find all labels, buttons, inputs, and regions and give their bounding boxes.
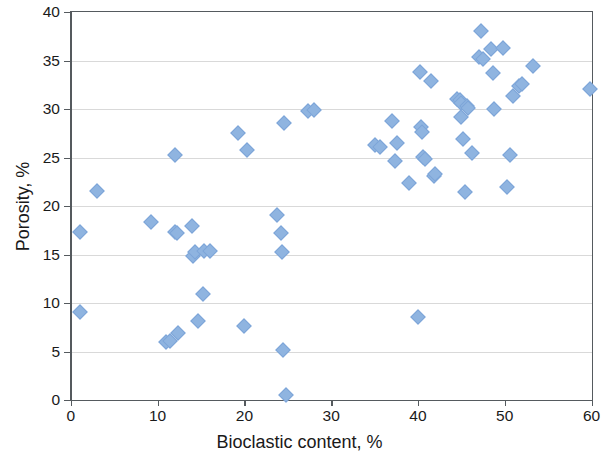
x-tick-label-30: 30 — [308, 408, 354, 423]
data-point — [410, 309, 426, 325]
data-point — [143, 214, 159, 230]
x-tick-40 — [418, 400, 419, 406]
y-tick-label-35: 35 — [18, 53, 60, 68]
data-point — [487, 101, 503, 117]
data-point — [389, 135, 405, 151]
data-point — [499, 179, 515, 195]
y-axis-line — [70, 11, 72, 401]
x-tick-label-50: 50 — [482, 408, 528, 423]
data-point — [388, 154, 404, 170]
data-point — [231, 126, 247, 142]
x-tick-50 — [505, 400, 506, 406]
y-tick-30 — [64, 109, 70, 110]
x-tick-label-10: 10 — [135, 408, 181, 423]
data-point — [423, 73, 439, 89]
gridline-y-5 — [71, 352, 592, 353]
y-tick-35 — [64, 61, 70, 62]
data-point — [167, 147, 183, 163]
data-point — [190, 314, 206, 330]
data-point — [195, 287, 211, 303]
data-point — [185, 219, 201, 235]
plot-frame-right — [592, 11, 593, 401]
data-point — [273, 225, 289, 241]
data-point — [457, 185, 473, 201]
data-point — [474, 24, 490, 40]
y-tick-10 — [64, 303, 70, 304]
data-point — [384, 113, 400, 129]
gridline-y-35 — [71, 61, 592, 62]
data-point — [502, 147, 518, 163]
y-axis-title: Porosity, % — [13, 92, 34, 322]
gridline-y-15 — [71, 255, 592, 256]
data-point — [402, 175, 418, 191]
gridline-y-10 — [71, 303, 592, 304]
x-tick-10 — [158, 400, 159, 406]
plot-frame-top — [70, 11, 593, 12]
y-tick-40 — [64, 12, 70, 13]
data-point — [239, 142, 255, 158]
y-tick-20 — [64, 206, 70, 207]
data-point — [582, 81, 598, 97]
data-point — [72, 224, 88, 240]
data-point — [277, 115, 293, 131]
y-tick-5 — [64, 352, 70, 353]
data-point — [495, 40, 511, 56]
data-point — [274, 244, 290, 260]
y-tick-label-5: 5 — [18, 344, 60, 359]
data-point — [270, 207, 286, 223]
x-tick-60 — [592, 400, 593, 406]
y-tick-25 — [64, 158, 70, 159]
data-point — [485, 65, 501, 81]
x-tick-20 — [244, 400, 245, 406]
x-axis-title: Bioclastic content, % — [0, 432, 599, 453]
data-point — [276, 342, 292, 358]
y-tick-label-40: 40 — [18, 4, 60, 19]
data-point — [455, 131, 471, 147]
x-tick-0 — [71, 400, 72, 406]
gridline-y-30 — [71, 109, 592, 110]
data-point — [237, 319, 253, 335]
data-point — [72, 304, 88, 320]
gridline-y-20 — [71, 206, 592, 207]
x-tick-label-0: 0 — [48, 408, 94, 423]
y-tick-0 — [64, 400, 70, 401]
y-tick-label-0: 0 — [18, 392, 60, 407]
data-point — [89, 183, 105, 199]
x-tick-30 — [331, 400, 332, 406]
x-tick-label-20: 20 — [221, 408, 267, 423]
x-tick-label-60: 60 — [569, 408, 605, 423]
y-tick-15 — [64, 255, 70, 256]
x-tick-label-40: 40 — [395, 408, 441, 423]
